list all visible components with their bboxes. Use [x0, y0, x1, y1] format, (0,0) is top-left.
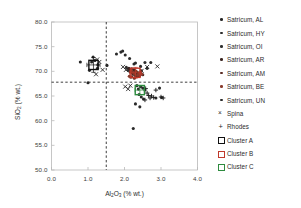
legend-item-label: Satricum, BE [227, 83, 264, 90]
y-axis-label-unit: (% wt.) [14, 84, 21, 106]
dot-glyph [220, 45, 223, 48]
legend-item-satricum-be[interactable]: Satricum, BE [216, 80, 300, 93]
y-axis-tick-label: 80.0 [20, 18, 48, 25]
legend-item-label: Spina [227, 110, 243, 117]
x-axis-tick-label: 4.0 [186, 175, 210, 182]
legend-item-label: Satricum, OI [227, 43, 263, 50]
dot-icon [216, 95, 227, 106]
data-point [121, 50, 124, 53]
y-axis-tick-label: 75.0 [20, 43, 48, 50]
data-point [134, 102, 137, 105]
open-square-glyph [218, 137, 225, 144]
data-point [79, 60, 82, 63]
cluster-marker-cluster-a [87, 58, 100, 73]
y-axis-tick-label: 60.0 [20, 117, 48, 124]
legend-item-cluster-a[interactable]: Cluster A [216, 134, 300, 147]
y-axis-tick-label: 70.0 [20, 67, 48, 74]
data-point [105, 64, 108, 67]
legend-item-label: Rhodes [227, 123, 249, 130]
data-point [115, 53, 118, 56]
dot-icon [216, 81, 227, 92]
dot-glyph [220, 85, 223, 88]
dot-icon [216, 68, 227, 79]
y-axis-tick-label: 55.0 [20, 141, 48, 148]
chart-legend: Satricum, ALSatricum, HYSatricum, OISatr… [216, 13, 300, 174]
legend-item-label: Satricum, AM [227, 70, 265, 77]
data-point [143, 61, 146, 64]
legend-item-label: Cluster C [227, 163, 254, 170]
dot-icon [216, 41, 227, 52]
legend-item-satricum-hy[interactable]: Satricum, HY [216, 26, 300, 39]
x-axis-tick-label: 1.0 [76, 175, 100, 182]
dot-glyph [220, 18, 223, 21]
cross-x-glyph: × [218, 110, 222, 117]
legend-item-cluster-c[interactable]: Cluster C [216, 160, 300, 173]
data-point [135, 70, 138, 73]
dot-glyph [220, 32, 223, 35]
x-axis-tick-label: 2.0 [113, 175, 137, 182]
data-point [134, 61, 137, 64]
cross-x-icon: × [216, 108, 227, 119]
cluster-marker-cluster-b [130, 67, 142, 78]
legend-item-satricum-am[interactable]: Satricum, AM [216, 67, 300, 80]
legend-item-satricum-oi[interactable]: Satricum, OI [216, 40, 300, 53]
dot-glyph [220, 72, 223, 75]
dot-icon [216, 14, 227, 25]
data-point [128, 57, 131, 60]
data-point [138, 105, 141, 108]
y-axis-tick-label: 50.0 [20, 166, 48, 173]
y-axis-label-subscript: 2 [17, 106, 22, 109]
data-point [139, 65, 142, 68]
legend-item-label: Satricum, HY [227, 30, 265, 37]
y-axis-label-text: SiO [14, 109, 21, 120]
legend-item-spina[interactable]: ×Spina [216, 107, 300, 120]
x-axis-label-unit: (% wt.) [121, 190, 143, 197]
data-point [132, 127, 135, 130]
data-point [158, 87, 161, 90]
legend-item-satricum-al[interactable]: Satricum, AL [216, 13, 300, 26]
legend-item-label: Cluster A [227, 137, 253, 144]
dot-glyph [220, 58, 223, 61]
legend-item-satricum-un[interactable]: Satricum, UN [216, 93, 300, 106]
data-point [86, 81, 89, 84]
x-axis-label: Al2O3 (% wt.) [52, 190, 198, 198]
data-point [124, 54, 127, 57]
y-axis-label: SiO2 (% wt.) [14, 84, 22, 120]
legend-item-label: Cluster B [227, 150, 253, 157]
data-point [133, 73, 136, 76]
x-axis-tick-label: 0.0 [40, 175, 64, 182]
legend-item-label: Satricum, UN [227, 97, 265, 104]
dot-icon [216, 28, 227, 39]
dot-icon [216, 54, 227, 65]
open-square-icon [216, 161, 227, 172]
legend-item-label: Satricum, AR [227, 56, 264, 63]
plus-icon: + [216, 121, 227, 132]
y-axis-tick-label: 65.0 [20, 92, 48, 99]
scatter-chart-figure: 50.055.060.065.070.075.080.00.01.02.03.0… [0, 0, 301, 208]
legend-item-satricum-ar[interactable]: Satricum, AR [216, 53, 300, 66]
data-point [92, 55, 95, 58]
plus-glyph: + [219, 123, 223, 131]
x-axis-tick-label: 3.0 [149, 175, 173, 182]
legend-item-label: Satricum, AL [227, 16, 263, 23]
data-point [140, 73, 143, 76]
data-point [154, 96, 157, 99]
open-square-icon [216, 135, 227, 146]
data-point [149, 61, 152, 64]
dot-glyph [220, 99, 223, 102]
open-square-glyph [218, 164, 225, 171]
legend-item-rhodes[interactable]: +Rhodes [216, 120, 300, 133]
open-square-glyph [218, 151, 225, 158]
plot-area-frame [52, 22, 198, 170]
legend-item-cluster-b[interactable]: Cluster B [216, 147, 300, 160]
open-square-icon [216, 148, 227, 159]
